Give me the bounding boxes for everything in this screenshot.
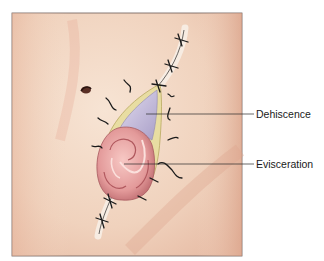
bowel-evisceration [97, 127, 155, 200]
wound-illustration [0, 0, 324, 261]
umbilicus [81, 87, 91, 94]
evisceration-label: Evisceration [256, 159, 313, 170]
dehiscence-label: Dehiscence [256, 109, 311, 120]
